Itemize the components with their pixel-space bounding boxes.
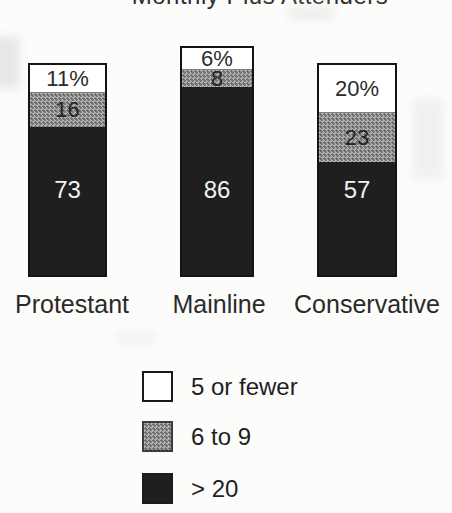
segment-value-label: 57 [319,177,395,203]
legend-swatch-white [142,371,173,402]
legend-label: 5 or fewer [191,371,298,402]
bar-protestant-segment-5-or-fewer: 11% [30,65,105,92]
legend-item-6-to-9: 6 to 9 [142,421,251,452]
bar-mainline: 6% 8 86 [180,46,254,277]
legend-swatch-black [142,473,173,504]
stacked-bar-chart-figure: Monthly Plus Attenders 11% 16 73 6% 8 86… [0,0,452,513]
bar-protestant: 11% 16 73 [28,63,107,277]
bar-conservative-segment-gt-20: 57 [319,162,395,275]
bar-conservative: 20% 23 57 [317,63,397,277]
bar-conservative-segment-6-to-9: 23 [319,112,395,162]
segment-value-label: 20% [335,78,379,100]
segment-value-label: 86 [182,177,252,203]
bar-protestant-segment-6-to-9: 16 [30,92,105,127]
segment-value-label: 73 [30,177,105,203]
segment-value-label: 16 [55,99,79,121]
legend-item-5-or-fewer: 5 or fewer [142,371,298,402]
bar-mainline-segment-gt-20: 86 [182,87,252,275]
bar-mainline-segment-6-to-9: 8 [182,69,252,87]
legend-swatch-gray-halftone [142,421,173,452]
category-label-conservative: Conservative [294,291,440,317]
legend-label: > 20 [191,473,238,504]
legend-label: 6 to 9 [191,421,251,452]
legend-item-gt-20: > 20 [142,473,238,504]
bar-conservative-segment-5-or-fewer: 20% [319,65,395,112]
chart-title: Monthly Plus Attenders [70,0,450,8]
category-label-protestant: Protestant [15,291,129,317]
scan-smudge [116,330,156,346]
segment-value-label: 23 [345,127,369,149]
scan-smudge [0,36,20,88]
category-label-mainline: Mainline [172,291,265,317]
scan-smudge [413,98,443,180]
segment-value-label: 11% [46,68,88,90]
bar-protestant-segment-gt-20: 73 [30,127,105,275]
